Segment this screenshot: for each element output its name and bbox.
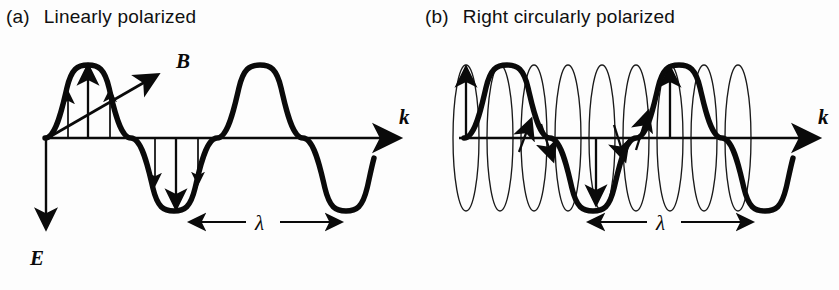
polarization-figure: (a)Linearly polarized [0,0,839,290]
e-field-label-a: E [29,246,44,270]
panel-linearly-polarized: (a)Linearly polarized [0,0,420,290]
wavelength-label-a: λ [254,211,264,235]
k-vector-label-a: k [399,105,410,129]
panel-b-drawing: k λ [419,0,839,290]
panel-right-circularly-polarized: (b)Right circularly polarized [419,0,839,290]
panel-a-drawing: B E k λ [0,0,420,290]
k-vector-label-b: k [818,105,829,129]
wavelength-label-b: λ [655,211,665,235]
b-field-label-a: B [175,49,190,73]
